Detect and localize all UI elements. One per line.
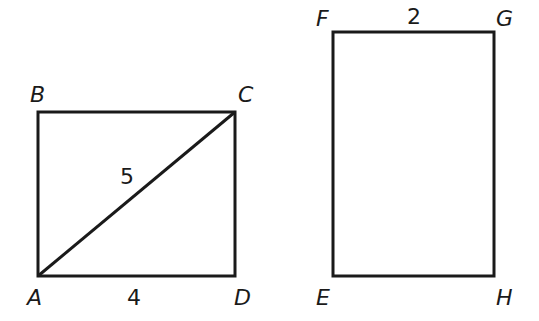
diagonal-length-label: 5 <box>120 166 134 188</box>
figure-drawing <box>0 0 539 321</box>
vertex-label-h: H <box>496 287 513 309</box>
vertex-label-b: B <box>30 84 45 106</box>
diagonal-ac <box>38 112 235 276</box>
vertex-label-f: F <box>316 8 329 30</box>
vertex-label-a: A <box>27 287 42 309</box>
vertex-label-d: D <box>234 287 251 309</box>
geometry-figure: B C A D 5 4 F G E H 2 <box>0 0 539 321</box>
side-fg-length-label: 2 <box>407 6 421 28</box>
vertex-label-c: C <box>238 84 253 106</box>
side-ad-length-label: 4 <box>127 287 141 309</box>
rectangle-efgh <box>333 32 494 276</box>
vertex-label-g: G <box>496 8 513 30</box>
vertex-label-e: E <box>316 287 330 309</box>
